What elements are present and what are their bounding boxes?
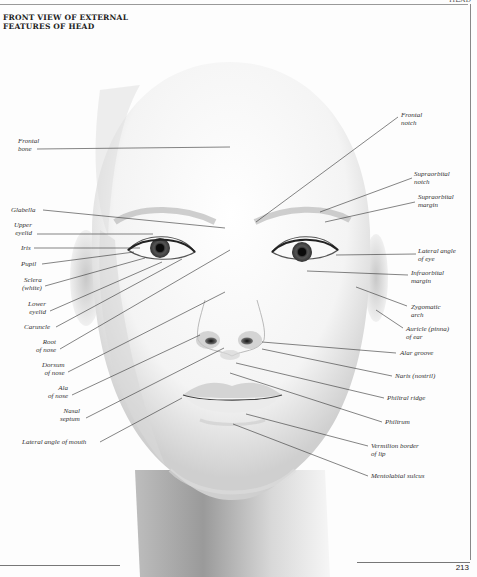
page-number: 213 xyxy=(456,563,469,572)
label-iris: Iris xyxy=(21,244,31,252)
bottom-rule-left xyxy=(0,565,120,566)
label-auricle: Auricle (pinna) of ear xyxy=(406,325,449,341)
label-pupil: Pupil xyxy=(21,260,36,268)
label-ala-of-nose: Ala of nose xyxy=(48,384,68,400)
label-nasal-septum: Nasal septum xyxy=(60,407,80,423)
anatomy-page: HEAD FRONT VIEW OF EXTERNAL FEATURES OF … xyxy=(0,0,477,577)
label-caruncle: Caruncle xyxy=(24,323,50,331)
label-frontal-notch: Frontal notch xyxy=(401,111,422,127)
label-frontal-bone: Frontal bone xyxy=(18,137,39,153)
bottom-rule-right xyxy=(357,562,470,563)
label-lateral-angle-of-mouth: Lateral angle of mouth xyxy=(22,438,86,446)
label-sclera: Sclera (white) xyxy=(22,276,42,292)
label-naris: Naris (nostril) xyxy=(395,372,435,380)
right-nostril xyxy=(241,338,253,345)
face-illustration xyxy=(0,0,477,577)
label-philtrum: Philtrum xyxy=(385,418,410,426)
label-glabella: Glabella xyxy=(11,206,36,214)
label-mentolabial-sulcus: Mentolabial sulcus xyxy=(371,472,424,480)
right-pupil xyxy=(298,248,306,256)
left-pupil xyxy=(156,244,164,252)
left-nostril xyxy=(205,338,217,345)
label-zygomatic-arch: Zygomatic arch xyxy=(411,303,441,319)
label-alar-groove: Alar groove xyxy=(400,349,433,357)
head xyxy=(92,62,370,500)
label-upper-eyelid: Upper eyelid xyxy=(14,221,32,237)
label-philtral-ridge: Philtral ridge xyxy=(387,394,425,402)
label-supraorbital-notch: Supraorbital notch xyxy=(414,170,450,186)
label-lower-eyelid: Lower eyelid xyxy=(28,300,46,316)
label-infraorbital-margin: Infraorbital margin xyxy=(411,269,444,285)
label-lateral-angle-of-eye: Lateral angle of eye xyxy=(418,247,456,263)
label-supraorbital-margin: Supraorbital margin xyxy=(418,193,454,209)
label-dorsum-of-nose: Dorsum of nose xyxy=(42,361,65,377)
label-root-of-nose: Root of nose xyxy=(36,338,56,354)
label-vermilion-border: Vermilion border of lip xyxy=(371,442,419,458)
